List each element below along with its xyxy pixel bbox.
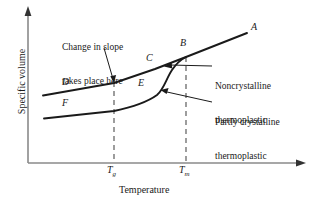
x-axis-arrow-icon [296, 160, 306, 167]
annotation-partly-crystalline-line-1: Partly crystalline [215, 117, 280, 128]
curve-point-label-e: E [138, 77, 144, 89]
annotation-partly-crystalline-line-2: thermoplastic [215, 151, 280, 162]
leader-partly-crystalline [167, 92, 212, 102]
y-axis-title: Specific volume [16, 22, 27, 142]
x-tick-label-tg: Tg [107, 164, 116, 178]
x-tick-label-tm-sub: m [185, 170, 190, 178]
y-axis-arrow-icon [25, 6, 32, 16]
curve-point-label-c: C [146, 52, 153, 64]
annotation-change-in-slope-line-1: Change in slope [62, 42, 123, 53]
curve-point-label-a: A [251, 21, 257, 33]
curve-point-label-b: B [180, 37, 186, 49]
annotation-partly-crystalline-thermoplastic: Partly crystalline thermoplastic [215, 95, 280, 185]
annotation-change-in-slope: Change in slope takes place here [62, 20, 123, 110]
x-tick-label-tm: Tm [179, 164, 190, 178]
chart-figure: Specific volume Temperature Tg Tm A B C … [0, 0, 318, 207]
annotation-change-in-slope-line-2: takes place here [62, 76, 123, 87]
annotation-noncrystalline-line-1: Noncrystalline [215, 81, 271, 92]
x-axis-title: Temperature [119, 184, 169, 196]
x-tick-label-tg-sub: g [113, 170, 117, 178]
